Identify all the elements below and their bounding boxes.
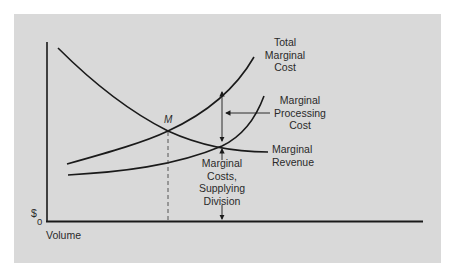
point-m-label: M — [164, 114, 172, 125]
y-axis-label: $ — [31, 207, 37, 220]
total-marginal-cost-label: Total Marginal Cost — [255, 36, 315, 74]
origin-label: 0 — [37, 216, 42, 229]
x-axis-label: Volume — [46, 229, 81, 242]
marginal-processing-cost-label: Marginal Processing Cost — [268, 94, 332, 132]
supplying-division-label: Marginal Costs, Supplying Division — [190, 157, 254, 207]
marginal-revenue-label: Marginal Revenue — [272, 143, 314, 168]
